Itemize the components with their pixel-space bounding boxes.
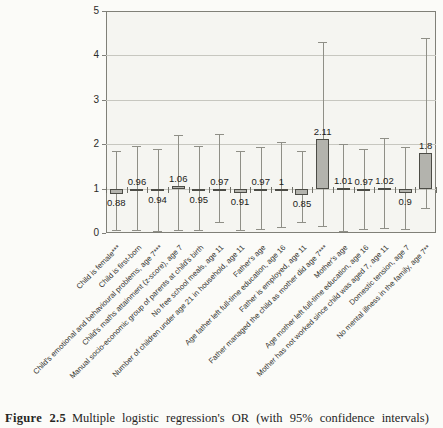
y-axis-tick	[102, 233, 106, 234]
bar	[295, 189, 308, 196]
plot-area: 0123450.88Child is female***0.96Child is…	[0, 0, 443, 428]
y-axis-tick	[102, 144, 106, 145]
category-axis-tick	[147, 187, 148, 193]
category-axis-tick	[312, 187, 313, 193]
value-label: 1.8	[411, 140, 441, 151]
category-axis-tick	[106, 187, 107, 193]
bar	[378, 188, 391, 190]
caption-figure-number: Figure 2.5	[5, 411, 66, 425]
error-bar-cap	[421, 38, 430, 39]
error-bar-cap	[359, 229, 368, 230]
error-bar-cap	[256, 229, 265, 230]
error-bar-cap	[401, 147, 410, 148]
value-label: 2.11	[308, 126, 338, 137]
category-axis-tick	[127, 187, 128, 193]
value-label: 0.9	[390, 196, 420, 207]
bar	[316, 139, 329, 188]
error-bar-cap	[236, 230, 245, 231]
y-axis-tick	[102, 100, 106, 101]
error-bar-cap	[215, 222, 224, 223]
value-label: 1.02	[369, 175, 399, 186]
bar	[110, 189, 123, 194]
figure-caption: Figure 2.5Multiple logistic regression's…	[5, 411, 440, 426]
error-bar-cap	[215, 134, 224, 135]
y-axis-tick-label: 1	[79, 183, 99, 194]
gridline	[106, 144, 436, 145]
error-bar-cap	[277, 142, 286, 143]
category-axis-tick	[209, 187, 210, 193]
error-bar-cap	[194, 146, 203, 147]
category-axis-tick	[292, 187, 293, 193]
error-bar-cap	[236, 151, 245, 152]
category-axis-tick	[333, 187, 334, 193]
value-label: 0.96	[122, 176, 152, 187]
gridline	[106, 100, 436, 101]
value-label: 0.94	[143, 194, 173, 205]
value-label: 0.95	[184, 194, 214, 205]
error-bar-cap	[112, 151, 121, 152]
error-bar-cap	[153, 231, 162, 232]
y-axis-tick-label: 3	[79, 94, 99, 105]
bar	[172, 186, 185, 189]
y-axis-tick	[102, 55, 106, 56]
error-bar-cap	[401, 229, 410, 230]
category-axis-tick	[436, 187, 437, 193]
bar	[213, 189, 226, 191]
error-bar-cap	[132, 146, 141, 147]
error-bar-cap	[153, 149, 162, 150]
category-axis-tick	[168, 187, 169, 193]
category-axis-tick	[271, 187, 272, 193]
caption-text: Multiple logistic regression's OR (with …	[72, 411, 429, 425]
error-bar-cap	[318, 42, 327, 43]
y-axis-tick-label: 4	[79, 49, 99, 60]
y-axis-tick	[102, 11, 106, 12]
error-bar-cap	[339, 144, 348, 145]
figure-page: 0123450.88Child is female***0.96Child is…	[0, 0, 443, 428]
error-bar-cap	[339, 231, 348, 232]
category-axis-tick	[415, 187, 416, 193]
bar	[399, 189, 412, 193]
bar	[192, 189, 205, 191]
y-axis-tick-label: 0	[79, 227, 99, 238]
error-bar-cap	[194, 230, 203, 231]
bar	[357, 189, 370, 191]
bar	[419, 153, 432, 189]
error-bar-cap	[112, 230, 121, 231]
category-axis-tick	[230, 187, 231, 193]
category-axis-tick	[374, 187, 375, 193]
y-axis-tick-label: 5	[79, 5, 99, 16]
gridline	[106, 55, 436, 56]
value-label: 1.06	[163, 173, 193, 184]
error-bar-cap	[380, 228, 389, 229]
error-bar-line	[302, 151, 303, 222]
value-label: 0.85	[287, 198, 317, 209]
error-bar-cap	[277, 227, 286, 228]
bar	[254, 189, 267, 191]
value-label: 0.97	[204, 176, 234, 187]
error-bar-cap	[256, 147, 265, 148]
error-bar-cap	[318, 226, 327, 227]
bar	[130, 189, 143, 191]
error-bar-cap	[359, 149, 368, 150]
error-bar-cap	[132, 230, 141, 231]
error-bar-cap	[297, 222, 306, 223]
value-label: 1	[266, 176, 296, 187]
bar	[275, 189, 288, 191]
bar	[234, 189, 247, 193]
category-axis-tick	[354, 187, 355, 193]
bar	[151, 189, 164, 192]
bar	[337, 188, 350, 190]
category-axis-tick	[395, 187, 396, 193]
error-bar-cap	[380, 138, 389, 139]
error-bar-cap	[174, 230, 183, 231]
category-axis-tick	[189, 187, 190, 193]
value-label: 0.88	[101, 197, 131, 208]
error-bar-cap	[421, 208, 430, 209]
error-bar-cap	[297, 151, 306, 152]
error-bar-cap	[174, 135, 183, 136]
category-axis-tick	[250, 187, 251, 193]
y-axis-tick-label: 2	[79, 138, 99, 149]
value-label: 0.91	[225, 196, 255, 207]
